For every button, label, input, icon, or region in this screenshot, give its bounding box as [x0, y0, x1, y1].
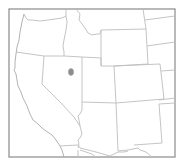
map-frame	[9, 9, 175, 157]
western-us-map	[0, 0, 184, 162]
map-container	[0, 0, 184, 162]
location-marker-dot[interactable]	[68, 69, 73, 76]
